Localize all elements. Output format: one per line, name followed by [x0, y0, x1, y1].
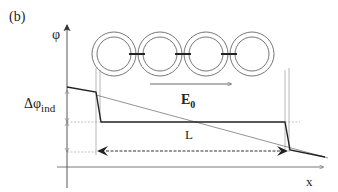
figure-panel-b: (b) φ x E0 Δφind L	[0, 0, 338, 192]
ring-5	[0, 0, 338, 192]
